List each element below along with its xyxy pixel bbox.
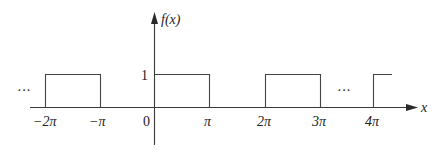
square-wave-figure: f(x) x 1 ··· ··· −2π −π 0 π 2π 3π 4π <box>0 0 439 153</box>
pulse-neg2pi-negpi <box>46 75 101 108</box>
x-tick-pi: π <box>204 114 212 129</box>
y-tick-label-1: 1 <box>141 68 148 83</box>
plot-canvas: f(x) x 1 ··· ··· −2π −π 0 π 2π 3π 4π <box>0 0 439 153</box>
x-tick-4pi: 4π <box>365 114 380 129</box>
ellipsis-left: ··· <box>17 83 31 98</box>
x-tick-zero: 0 <box>143 114 150 129</box>
x-tick-2pi: 2π <box>257 114 272 129</box>
x-tick-negpi: −π <box>89 114 106 129</box>
x-tick-3pi: 3π <box>311 114 327 129</box>
x-tick-neg2pi: −2π <box>33 114 57 129</box>
pulse-4pi-partial <box>374 75 393 108</box>
pulse-0-pi <box>155 75 210 108</box>
ellipsis-right: ··· <box>337 83 351 98</box>
x-axis-arrow-icon <box>406 104 418 111</box>
y-axis-label: f(x) <box>161 12 181 28</box>
x-axis-label: x <box>420 100 428 115</box>
pulse-2pi-3pi <box>266 75 321 108</box>
y-axis-arrow-icon <box>151 12 158 24</box>
